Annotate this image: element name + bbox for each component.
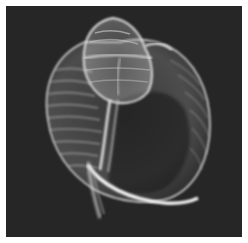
shell-xray-illustration <box>6 6 242 237</box>
shell-spire <box>84 18 152 103</box>
image-panel <box>6 6 242 237</box>
